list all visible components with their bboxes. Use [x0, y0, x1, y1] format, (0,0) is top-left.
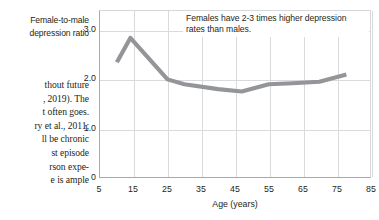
depression-ratio-line-chart: 01.02.03.0 51525354555657585 Females hav… [76, 0, 379, 220]
x-tick-label: 35 [191, 184, 211, 194]
gridline-vertical [372, 11, 373, 177]
series-polyline [117, 38, 347, 92]
y-tick-label: 2.0 [76, 73, 96, 83]
x-tick-label: 65 [293, 184, 313, 194]
x-tick-label: 25 [157, 184, 177, 194]
x-axis-title: Age (years) [99, 199, 371, 209]
y-tick-label: 1.0 [76, 123, 96, 133]
y-tick-label: 0 [76, 172, 96, 182]
y-tick-label: 3.0 [76, 24, 96, 34]
figure-page: Female-to-male depression ratio thout fu… [0, 0, 379, 220]
x-tick-label: 55 [259, 184, 279, 194]
x-tick-label: 45 [225, 184, 245, 194]
x-tick-label: 75 [327, 184, 347, 194]
x-tick-label: 85 [361, 184, 379, 194]
x-tick-label: 15 [123, 184, 143, 194]
chart-annotation: Females have 2-3 times higher depression… [183, 11, 369, 37]
x-tick-label: 5 [89, 184, 109, 194]
